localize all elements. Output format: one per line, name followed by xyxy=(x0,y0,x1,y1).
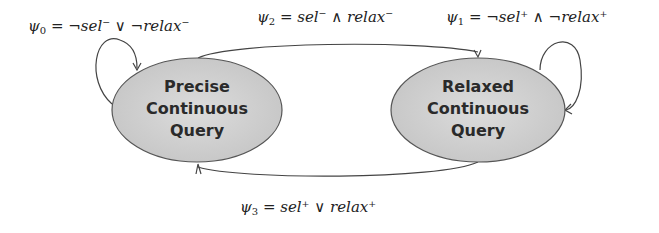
edge-label-psi3: ψ3 = sel⁺ ∨ relax⁺ xyxy=(240,198,376,217)
node-precise-label: Precise Continuous Query xyxy=(117,76,277,142)
node-relaxed-label: Relaxed Continuous Query xyxy=(398,76,558,142)
arrowhead-psi2 xyxy=(474,50,481,57)
edge-label-psi1: ψ1 = ¬sel⁺ ∧ ¬relax⁺ xyxy=(446,8,607,27)
node-line: Continuous xyxy=(117,98,277,120)
edge-label-psi0: ψ0 = ¬sel⁻ ∨ ¬relax⁻ xyxy=(28,17,189,36)
node-line: Query xyxy=(117,120,277,142)
arrowhead-psi3 xyxy=(196,164,201,174)
node-line: Continuous xyxy=(398,98,558,120)
node-line: Precise xyxy=(117,76,277,98)
edge-psi2 xyxy=(198,44,478,58)
edge-label-psi2: ψ2 = sel⁻ ∧ relax⁻ xyxy=(257,8,393,27)
node-line: Relaxed xyxy=(398,76,558,98)
node-line: Query xyxy=(398,120,558,142)
edge-psi3 xyxy=(198,162,478,176)
